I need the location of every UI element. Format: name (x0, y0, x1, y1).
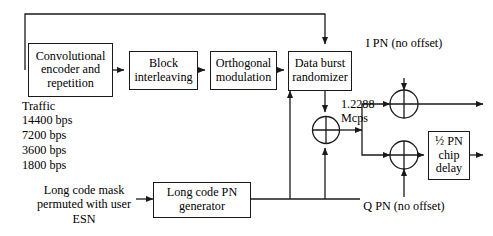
traffic-rate-7200: 7200 bps (22, 128, 66, 143)
long-code-mask-label: Long code mask permuted with user ESN (32, 183, 136, 226)
block-convolutional-encoder[interactable]: Convolutional encoder and repetition (28, 43, 113, 97)
block-long-code-pn-generator[interactable]: Long code PN generator (153, 182, 251, 218)
block-convolutional-encoder-label: Convolutional encoder and repetition (34, 50, 108, 91)
block-data-burst-randomizer[interactable]: Data burst randomizer (288, 51, 352, 91)
traffic-rate-14400: 14400 bps (22, 113, 72, 128)
block-orthogonal-modulation-label: Orthogonal modulation (214, 57, 274, 84)
block-orthogonal-modulation[interactable]: Orthogonal modulation (210, 51, 277, 90)
q-pn-label: Q PN (no offset) (349, 199, 459, 213)
i-pn-label: I PN (no offset) (349, 36, 459, 50)
traffic-rate-3600: 3600 bps (22, 143, 66, 158)
traffic-rate-1800: 1800 bps (22, 158, 66, 173)
block-data-burst-randomizer-label: Data burst randomizer (290, 57, 350, 84)
wire-to-q-xor (362, 130, 390, 155)
block-block-interleaving[interactable]: Block interleaving (129, 51, 198, 90)
block-long-code-pn-generator-label: Long code PN generator (165, 186, 239, 213)
diagram-canvas: Convolutional encoder and repetition Blo… (0, 0, 493, 236)
block-block-interleaving-label: Block interleaving (132, 57, 194, 84)
block-half-pn-chip-delay[interactable]: ½ PN chip delay (428, 131, 470, 180)
traffic-heading: Traffic (22, 99, 55, 113)
block-half-pn-chip-delay-label: ½ PN chip delay (433, 135, 465, 176)
chip-rate-label: 1.2288 Mcps (341, 97, 375, 126)
